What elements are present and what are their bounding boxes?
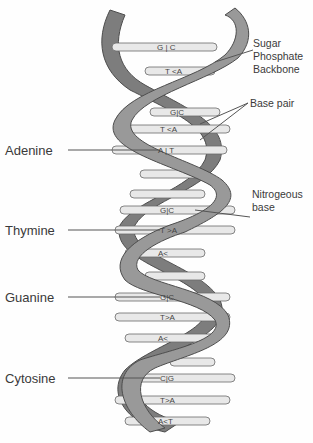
svg-text:G|C: G|C — [160, 293, 174, 302]
dna-diagram: G | C T <A G|C T <A A | T G|C T >A A< G|… — [0, 0, 313, 443]
svg-text:T <A: T <A — [165, 67, 183, 76]
svg-text:G|C: G|C — [160, 206, 174, 215]
label-thymine: Thymine — [5, 223, 55, 238]
svg-text:A<T: A<T — [158, 417, 173, 426]
svg-text:T>A: T>A — [160, 396, 176, 405]
svg-text:G|C: G|C — [170, 108, 184, 117]
svg-text:A<: A< — [158, 249, 168, 258]
label-base-pair: Base pair — [250, 97, 294, 110]
label-adenine: Adenine — [5, 143, 53, 158]
svg-text:T>A: T>A — [160, 313, 176, 322]
svg-text:G | C: G | C — [157, 43, 176, 52]
svg-text:A<: A< — [158, 334, 168, 343]
svg-text:T >A: T >A — [160, 226, 178, 235]
svg-text:T <A: T <A — [160, 125, 178, 134]
svg-text:C|G: C|G — [160, 374, 174, 383]
label-cytosine: Cytosine — [5, 371, 56, 386]
svg-text:A | T: A | T — [158, 146, 174, 155]
label-guanine: Guanine — [5, 290, 54, 305]
